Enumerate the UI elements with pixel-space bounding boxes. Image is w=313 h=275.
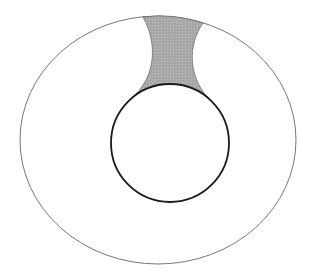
diagram-figure [0, 0, 313, 275]
diagram-canvas [0, 0, 313, 275]
inner-circle [111, 84, 229, 202]
